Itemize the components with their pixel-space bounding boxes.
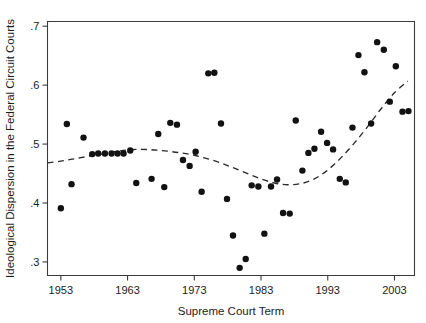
data-point [174,121,180,127]
data-point [274,176,280,182]
data-point [68,181,74,187]
data-point [361,69,367,75]
data-point [405,108,411,114]
data-point [58,205,64,211]
data-point [305,150,311,156]
data-point [242,256,248,262]
y-tick-label: .4 [30,197,39,209]
x-tick-label: 2003 [382,284,406,296]
data-point [148,176,154,182]
x-axis-title: Supreme Court Term [178,305,285,317]
data-point [224,196,230,202]
x-tick-label: 1953 [49,284,73,296]
data-point [186,163,192,169]
data-point [127,147,133,153]
data-point [387,98,393,104]
data-point [399,108,405,114]
data-point [337,176,343,182]
data-point [155,131,161,137]
data-point [114,150,120,156]
data-point [236,265,242,271]
trend-line [48,81,408,185]
data-point [80,134,86,140]
data-point [192,149,198,155]
data-point [205,70,211,76]
data-point [89,151,95,157]
data-point [218,120,224,126]
data-point [343,179,349,185]
data-point [293,117,299,123]
y-tick-label: .6 [30,79,39,91]
data-point [120,150,126,156]
data-point [64,121,70,127]
data-point [230,232,236,238]
data-point [261,230,267,236]
y-tick-label: .7 [30,20,39,32]
data-point [355,52,361,58]
data-point [311,146,317,152]
plot-canvas: .3.4.5.6.7195319631973198319932003 Supre… [0,0,426,323]
trend-line-group [48,81,408,185]
data-point [330,146,336,152]
data-point [381,47,387,53]
data-point [102,150,108,156]
axis-labels-group: Supreme Court TermIdeological Dispersion… [4,19,284,317]
x-tick-label: 1963 [115,284,139,296]
x-tick-label: 1973 [182,284,206,296]
data-point [95,150,101,156]
data-point [318,129,324,135]
y-axis-title: Ideological Dispersion in the Federal Ci… [4,19,16,278]
data-point [161,184,167,190]
data-point [167,120,173,126]
data-points-group [58,39,412,271]
data-point [280,210,286,216]
y-tick-label: .5 [30,138,39,150]
data-point [248,182,254,188]
data-point [180,157,186,163]
y-tick-label: .3 [30,256,39,268]
ticks-group: .3.4.5.6.7195319631973198319932003 [30,20,406,295]
data-point [393,63,399,69]
data-point [287,210,293,216]
data-point [368,120,374,126]
data-point [133,180,139,186]
data-point [324,140,330,146]
data-point [108,150,114,156]
data-point [374,39,380,45]
data-point [349,124,355,130]
x-tick-label: 1993 [316,284,340,296]
scatter-plot-figure: .3.4.5.6.7195319631973198319932003 Supre… [0,0,426,323]
data-point [299,167,305,173]
data-point [211,70,217,76]
data-point [255,183,261,189]
x-tick-label: 1983 [249,284,273,296]
data-point [198,189,204,195]
data-point [268,183,274,189]
